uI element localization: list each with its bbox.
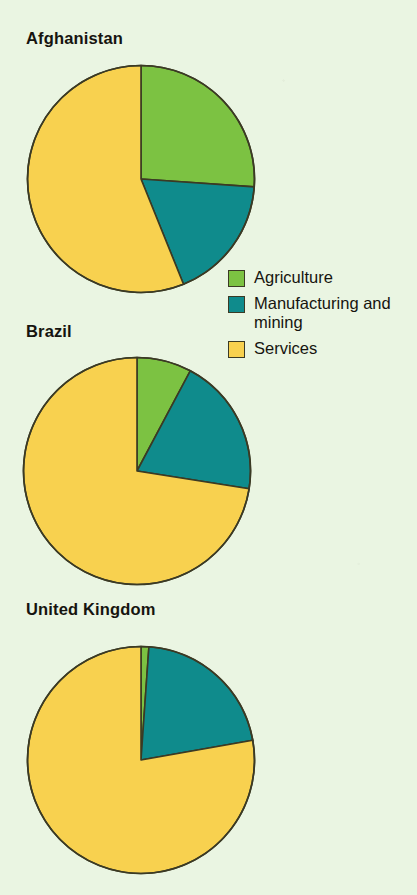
legend-item-services: Services [228,339,413,358]
legend-label-manufacturing: Manufacturing and mining [254,294,413,332]
legend: Agriculture Manufacturing and mining Ser… [228,268,413,365]
legend-item-agriculture: Agriculture [228,268,413,287]
legend-swatch-services [228,341,245,358]
pie-chart-united-kingdom [26,645,256,875]
legend-item-manufacturing: Manufacturing and mining [228,294,413,332]
legend-label-services: Services [254,339,317,358]
chart-title-brazil: Brazil [26,322,72,341]
pie-slice-agriculture [141,66,254,187]
legend-swatch-agriculture [228,270,245,287]
legend-label-agriculture: Agriculture [254,268,333,287]
chart-title-afghanistan: Afghanistan [26,29,123,48]
chart-title-united-kingdom: United Kingdom [26,600,156,619]
legend-swatch-manufacturing [228,296,245,313]
pie-chart-brazil [22,356,252,586]
pie-chart-figure: Afghanistan Brazil United Kingdom Agricu… [0,0,417,895]
pie-chart-afghanistan [26,64,256,294]
